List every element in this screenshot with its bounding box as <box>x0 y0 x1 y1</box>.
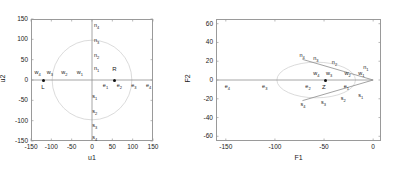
point-label-e4: e4 <box>225 83 230 91</box>
x-tick-label-0: -150 <box>212 143 240 150</box>
y-tick-label-0: -60 <box>192 132 213 139</box>
point-label-n2: n2 <box>332 59 337 67</box>
point-label-w4: w4 <box>313 70 319 78</box>
point-label-e1: e1 <box>344 83 349 91</box>
point-label-n3: n3 <box>313 55 318 63</box>
point-label-s1: s1 <box>358 92 363 100</box>
point-label-e2: e2 <box>305 83 310 91</box>
y-tick-label-5: 40 <box>192 38 213 45</box>
figure-root: -150-100-50050100150 -150-100-5005010015… <box>0 0 396 171</box>
y-tick-label-2: -20 <box>192 95 213 102</box>
x-tick-label-3: 0 <box>359 143 387 150</box>
x-tick-label-2: -50 <box>310 143 338 150</box>
y-tick-label-4: 20 <box>192 57 213 64</box>
annotation-z: Z <box>322 84 326 90</box>
point-label-w2: w2 <box>345 70 351 78</box>
point-label-s4: s4 <box>300 101 305 109</box>
y-tick-label-6: 60 <box>192 20 213 27</box>
right-y-axis-label: F2 <box>184 66 191 92</box>
marker-z <box>324 79 327 82</box>
point-label-e3: e3 <box>262 83 267 91</box>
point-label-w1: w1 <box>358 70 364 78</box>
x-tick-label-1: -100 <box>261 143 289 150</box>
y-tick-label-1: -40 <box>192 114 213 121</box>
point-label-s3: s3 <box>321 99 326 107</box>
y-tick-label-3: 0 <box>192 76 213 83</box>
point-label-s2: s2 <box>341 95 346 103</box>
right-x-axis-label: F1 <box>279 154 319 161</box>
point-label-n4: n4 <box>299 52 304 60</box>
point-label-w3: w3 <box>326 70 332 78</box>
